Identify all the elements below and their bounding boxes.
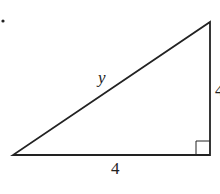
base-label: 4	[111, 160, 120, 177]
right-triangle	[13, 22, 210, 155]
bullet-dot	[1, 19, 4, 22]
height-label: 4	[215, 82, 220, 99]
triangle-figure	[0, 0, 220, 194]
right-angle-marker	[196, 141, 210, 155]
hypotenuse-label: y	[98, 69, 106, 86]
